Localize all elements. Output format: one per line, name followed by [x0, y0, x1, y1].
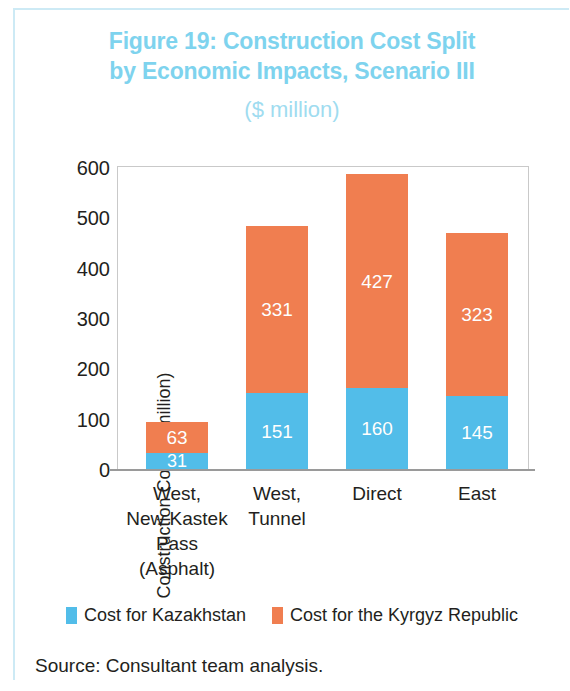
plot-area: Construction Cost ($ million) 6331331151…	[117, 166, 529, 470]
x-axis-category-label-line: Pass	[102, 531, 252, 556]
y-axis-tick-label: 100	[48, 410, 110, 430]
bar-segment-kazakhstan[interactable]: 31	[146, 453, 208, 469]
x-axis-category-label: East	[402, 481, 552, 506]
bar-value-label: 427	[361, 272, 393, 291]
y-axis-tick-label: 500	[48, 208, 110, 228]
y-axis-tick-label: 600	[48, 158, 110, 178]
legend-item[interactable]: Cost for Kazakhstan	[66, 606, 246, 624]
bar-segment-kazakhstan[interactable]: 151	[246, 393, 308, 469]
bar-value-label: 145	[461, 423, 493, 442]
chart-legend: Cost for KazakhstanCost for the Kyrgyz R…	[22, 606, 562, 624]
bar-stack[interactable]: 6331	[146, 422, 208, 469]
x-axis-category-label-line: Tunnel	[202, 506, 352, 531]
legend-label: Cost for the Kyrgyz Republic	[290, 606, 518, 624]
legend-swatch-icon	[272, 607, 283, 624]
bar-segment-kyrgyz[interactable]: 63	[146, 422, 208, 454]
y-axis-tick-labels: 0100200300400500600	[42, 0, 110, 691]
bar-value-label: 323	[461, 305, 493, 324]
legend-label: Cost for Kazakhstan	[84, 606, 246, 624]
figure-container: Figure 19: Construction Cost Split by Ec…	[0, 0, 570, 691]
x-axis-category-label-line: East	[402, 481, 552, 506]
bar-segment-kazakhstan[interactable]: 145	[446, 396, 508, 469]
y-axis-tick-label: 200	[48, 359, 110, 379]
source-note: Source: Consultant team analysis.	[35, 655, 323, 677]
bar-value-label: 151	[261, 422, 293, 441]
x-axis-category-label-line: (Asphalt)	[102, 556, 252, 581]
bar-stack[interactable]: 331151	[246, 226, 308, 469]
bar-stack[interactable]: 427160	[346, 174, 408, 469]
bar-value-label: 160	[361, 419, 393, 438]
x-axis-line	[110, 469, 535, 471]
legend-item[interactable]: Cost for the Kyrgyz Republic	[272, 606, 518, 624]
bar-segment-kyrgyz[interactable]: 323	[446, 233, 508, 396]
bar-segment-kazakhstan[interactable]: 160	[346, 388, 408, 469]
bar-segment-kyrgyz[interactable]: 331	[246, 226, 308, 393]
figure-frame-left-rule	[13, 8, 15, 680]
bar-value-label: 331	[261, 300, 293, 319]
y-axis-tick-label: 0	[48, 460, 110, 480]
bar-stack[interactable]: 323145	[446, 233, 508, 469]
y-axis-tick-label: 300	[48, 309, 110, 329]
bar-value-label: 31	[167, 452, 187, 471]
bar-segment-kyrgyz[interactable]: 427	[346, 174, 408, 389]
y-axis-tick-label: 400	[48, 259, 110, 279]
legend-swatch-icon	[66, 607, 77, 624]
bar-value-label: 63	[166, 428, 187, 447]
